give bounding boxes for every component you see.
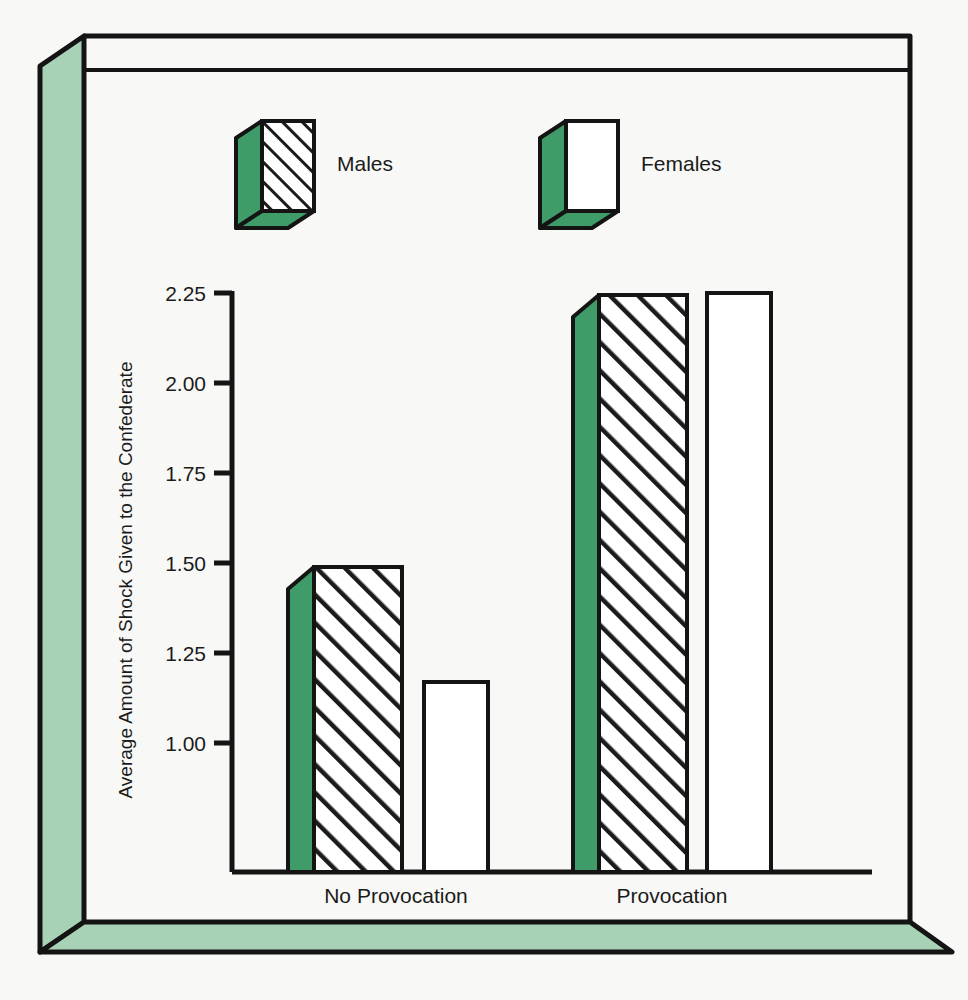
bar-front-face xyxy=(599,295,687,872)
y-tick-label-225: 2.25 xyxy=(165,282,206,305)
frame-left-wall xyxy=(40,36,84,952)
y-tick-label-200: 2.00 xyxy=(165,372,206,395)
bar-front-face xyxy=(707,293,771,872)
figure-frame-3d xyxy=(40,36,952,952)
bar-provocation-females[interactable] xyxy=(707,293,771,872)
y-axis-title: Average Amount of Shock Given to the Con… xyxy=(115,362,136,799)
legend-entry-males[interactable]: Males xyxy=(236,121,393,228)
frame-floor xyxy=(40,922,952,952)
chart-canvas: Males Females xyxy=(0,0,968,1000)
bar-group-provocation: Provocation xyxy=(573,293,771,907)
x-category-label-provocation: Provocation xyxy=(617,884,728,907)
legend-swatch-females-icon xyxy=(540,121,618,228)
y-tick-label-175: 1.75 xyxy=(165,462,206,485)
frame-back-wall xyxy=(84,36,910,922)
bar-side-face xyxy=(573,295,599,872)
legend: Males Females xyxy=(236,121,722,228)
y-axis-tick-labels: 2.25 2.00 1.75 1.50 1.25 1.00 xyxy=(165,282,206,755)
legend-label-males: Males xyxy=(337,152,393,175)
bar-provocation-males[interactable] xyxy=(573,295,687,872)
bar-no-provocation-females[interactable] xyxy=(424,682,488,872)
y-axis-ticks xyxy=(214,293,232,743)
bar-front-face xyxy=(424,682,488,872)
legend-label-females: Females xyxy=(641,152,722,175)
bar-front-face xyxy=(314,567,402,872)
chart-figure: Males Females xyxy=(0,0,968,1000)
bar-group-no-provocation: No Provocation xyxy=(288,567,488,907)
x-category-label-no-provocation: No Provocation xyxy=(324,884,468,907)
legend-swatch-males-icon xyxy=(236,121,314,228)
y-tick-label-150: 1.50 xyxy=(165,552,206,575)
y-tick-label-100: 1.00 xyxy=(165,732,206,755)
y-tick-label-125: 1.25 xyxy=(165,642,206,665)
legend-entry-females[interactable]: Females xyxy=(540,121,722,228)
bar-no-provocation-males[interactable] xyxy=(288,567,402,872)
bar-side-face xyxy=(288,567,314,872)
